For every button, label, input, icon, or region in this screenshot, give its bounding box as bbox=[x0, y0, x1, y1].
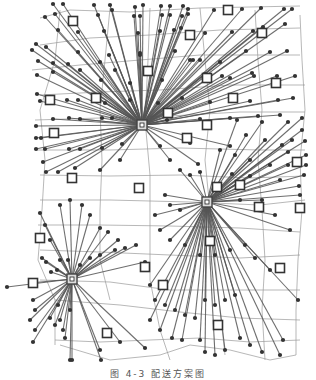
demand-node bbox=[159, 4, 163, 8]
demand-node bbox=[248, 174, 252, 178]
demand-node bbox=[213, 303, 217, 307]
demand-node bbox=[198, 253, 202, 257]
demand-node bbox=[193, 316, 197, 320]
demand-node bbox=[300, 128, 304, 132]
demand-node bbox=[170, 336, 174, 340]
demand-node bbox=[290, 7, 294, 11]
demand-node bbox=[55, 268, 59, 272]
demand-node bbox=[259, 6, 263, 10]
demand-node bbox=[251, 29, 255, 33]
demand-node bbox=[278, 178, 282, 182]
demand-node bbox=[110, 8, 114, 12]
hub-center-icon bbox=[205, 200, 209, 204]
demand-node bbox=[160, 13, 164, 17]
demand-node bbox=[198, 338, 202, 342]
demand-node bbox=[235, 118, 239, 122]
demand-node bbox=[248, 158, 252, 162]
facility-square-icon bbox=[276, 264, 285, 273]
demand-node bbox=[263, 138, 267, 142]
facility-square-icon bbox=[68, 174, 77, 183]
demand-node bbox=[268, 268, 272, 272]
facility-square-icon bbox=[236, 181, 245, 190]
demand-node bbox=[44, 260, 48, 264]
demand-node bbox=[110, 116, 114, 120]
demand-node bbox=[208, 100, 212, 104]
demand-node bbox=[213, 353, 217, 357]
demand-node bbox=[99, 358, 103, 362]
demand-node bbox=[136, 31, 140, 35]
demand-node bbox=[98, 226, 102, 230]
demand-node bbox=[173, 308, 177, 312]
facility-square-icon bbox=[159, 281, 168, 290]
demand-node bbox=[148, 283, 152, 287]
demand-node bbox=[198, 117, 202, 121]
assignment-line bbox=[72, 279, 101, 360]
demand-node bbox=[96, 13, 100, 17]
demand-node bbox=[38, 211, 42, 215]
demand-node bbox=[283, 22, 287, 26]
demand-node bbox=[98, 60, 102, 64]
demand-node bbox=[288, 228, 292, 232]
facility-square-icon bbox=[183, 134, 192, 143]
demand-node bbox=[198, 58, 202, 62]
demand-node bbox=[67, 147, 71, 151]
demand-node bbox=[230, 172, 234, 176]
demand-node bbox=[240, 7, 244, 11]
facility-square-icon bbox=[164, 109, 173, 118]
demand-node bbox=[100, 116, 104, 120]
facility-square-icon bbox=[203, 121, 212, 130]
demand-node bbox=[120, 142, 124, 146]
demand-node bbox=[61, 328, 65, 332]
demand-node bbox=[158, 29, 162, 33]
demand-node bbox=[58, 258, 62, 262]
facility-square-icon bbox=[214, 321, 223, 330]
assignment-line bbox=[172, 202, 207, 338]
demand-node bbox=[48, 238, 52, 242]
demand-node bbox=[276, 98, 280, 102]
demand-node bbox=[58, 203, 62, 207]
demand-node bbox=[80, 203, 84, 207]
assignment-lines bbox=[7, 4, 306, 360]
demand-node bbox=[66, 258, 70, 262]
facility-square-icon bbox=[69, 17, 78, 26]
demand-node bbox=[297, 184, 301, 188]
demand-node bbox=[244, 49, 248, 53]
demand-node bbox=[113, 68, 117, 72]
facility-square-icon bbox=[224, 6, 233, 15]
demand-node bbox=[107, 53, 111, 57]
demand-node bbox=[28, 318, 32, 322]
demand-node bbox=[218, 60, 222, 64]
demand-node bbox=[102, 29, 106, 33]
demand-node bbox=[61, 2, 65, 6]
demand-node bbox=[106, 230, 110, 234]
demand-node bbox=[88, 213, 92, 217]
facility-square-icon bbox=[135, 184, 144, 193]
demand-node bbox=[286, 150, 290, 154]
demand-node bbox=[123, 246, 127, 250]
demand-node bbox=[196, 162, 200, 166]
demand-node bbox=[228, 248, 232, 252]
facility-square-icon bbox=[144, 67, 153, 76]
demand-node bbox=[92, 3, 96, 7]
demand-node bbox=[5, 285, 9, 289]
demand-node bbox=[233, 293, 237, 297]
demand-node bbox=[268, 50, 272, 54]
demand-node bbox=[163, 193, 167, 197]
demand-node bbox=[250, 71, 254, 75]
demand-node bbox=[303, 139, 307, 143]
demand-node bbox=[118, 340, 122, 344]
demand-node bbox=[168, 158, 172, 162]
demand-node bbox=[302, 173, 306, 177]
demand-node bbox=[78, 263, 82, 267]
demand-node bbox=[233, 153, 237, 157]
demand-node bbox=[213, 253, 217, 257]
demand-node bbox=[304, 153, 308, 157]
demand-node bbox=[35, 92, 39, 96]
demand-node bbox=[99, 78, 103, 82]
demand-node bbox=[108, 3, 112, 7]
demand-node bbox=[282, 7, 286, 11]
demand-node bbox=[68, 198, 72, 202]
demand-node bbox=[256, 114, 260, 118]
demand-node bbox=[44, 170, 48, 174]
facility-square-icon bbox=[103, 329, 112, 338]
